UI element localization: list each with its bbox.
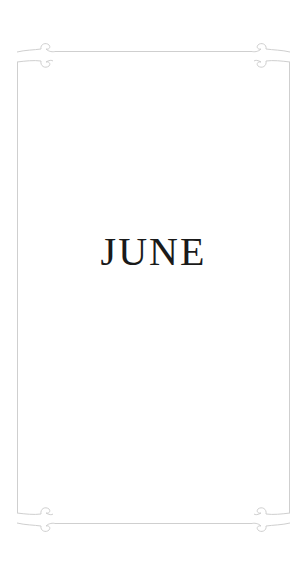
decorative-frame bbox=[0, 0, 307, 567]
corner-flourish-bottom-right-icon bbox=[252, 508, 290, 532]
month-title: JUNE bbox=[0, 228, 307, 276]
corner-flourish-top-right-icon bbox=[252, 44, 290, 68]
corner-flourish-bottom-left-icon bbox=[17, 508, 55, 532]
corner-flourish-top-left-icon bbox=[17, 44, 55, 68]
month-card: JUNE bbox=[0, 0, 307, 567]
